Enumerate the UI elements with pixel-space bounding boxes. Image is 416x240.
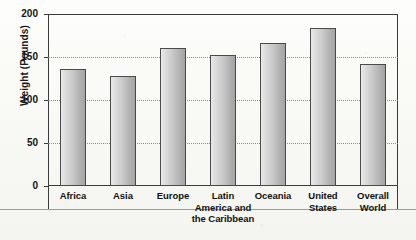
x-axis-category-labels: AfricaAsiaEuropeLatinAmerica andthe Cari… [48, 190, 398, 238]
bar-fill [310, 28, 336, 186]
bar-fill [260, 43, 286, 186]
y-tick-label-150: 150 [8, 51, 38, 62]
bar-fill [210, 55, 236, 186]
x-label-overall-world: OverallWorld [327, 190, 416, 213]
bar-united-states[interactable] [310, 28, 336, 186]
bar-fill [60, 69, 86, 186]
y-tick-label-100: 100 [8, 94, 38, 105]
y-tick-label-200: 200 [8, 8, 38, 19]
bar-asia[interactable] [110, 76, 136, 186]
bar-fill [360, 64, 386, 186]
bar-fill [160, 48, 186, 186]
bar-chart: Weight (Pounds) 050100150200 AfricaAsiaE… [0, 0, 416, 240]
bar-oceania[interactable] [260, 43, 286, 186]
x-label-line: Overall [327, 190, 416, 202]
y-tick-mark-0 [44, 186, 48, 187]
bar-overall-world[interactable] [360, 64, 386, 186]
x-label-line: America and [177, 202, 269, 214]
x-label-line: the Caribbean [177, 213, 269, 225]
bar-europe[interactable] [160, 48, 186, 186]
x-label-line: World [327, 202, 416, 214]
bar-latin-america-and-the-caribbean[interactable] [210, 55, 236, 186]
bar-africa[interactable] [60, 69, 86, 186]
bar-fill [110, 76, 136, 186]
y-tick-label-50: 50 [8, 137, 38, 148]
bars-layer [48, 14, 398, 186]
y-axis-title: Weight (Pounds) [19, 0, 30, 136]
